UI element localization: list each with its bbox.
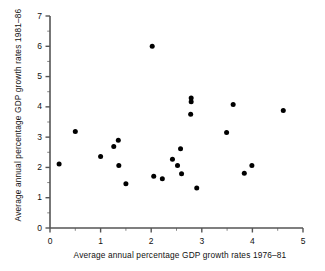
y-tick-label: 6 xyxy=(28,42,42,51)
x-axis-label: Average annual percentage GDP growth rat… xyxy=(40,250,320,260)
y-tick-label: 5 xyxy=(28,72,42,81)
data-point xyxy=(178,146,183,151)
data-point xyxy=(57,162,62,167)
scatter-plot-figure: Average annual percentage GDP growth rat… xyxy=(0,0,325,271)
y-tick-label: 2 xyxy=(28,163,42,172)
x-tick-label: 1 xyxy=(93,237,109,246)
data-point xyxy=(188,112,193,117)
data-point xyxy=(73,129,78,134)
data-point xyxy=(116,138,121,143)
y-axis-label: Average annual percentage GDP growth rat… xyxy=(13,0,23,230)
y-tick-label: 0 xyxy=(28,224,42,233)
data-point xyxy=(116,163,121,168)
data-point xyxy=(170,157,175,162)
data-point xyxy=(150,44,155,49)
data-point xyxy=(281,108,286,113)
y-tick-label: 1 xyxy=(28,193,42,202)
data-point xyxy=(189,99,194,104)
data-point xyxy=(179,171,184,176)
data-point xyxy=(111,144,116,149)
data-point xyxy=(98,154,103,159)
plot-canvas xyxy=(0,0,325,271)
data-point xyxy=(249,163,254,168)
x-tick-label: 3 xyxy=(194,237,210,246)
data-point xyxy=(231,102,236,107)
x-tick-label: 4 xyxy=(244,237,260,246)
x-tick-label: 2 xyxy=(143,237,159,246)
x-tick-label: 5 xyxy=(295,237,311,246)
data-point xyxy=(160,176,165,181)
data-point xyxy=(123,181,128,186)
tick-marks xyxy=(46,16,304,233)
data-point xyxy=(224,130,229,135)
data-point xyxy=(175,163,180,168)
axes xyxy=(50,16,303,228)
x-tick-label: 0 xyxy=(42,237,58,246)
data-points xyxy=(57,44,286,191)
y-tick-label: 3 xyxy=(28,133,42,142)
data-point xyxy=(151,174,156,179)
data-point xyxy=(242,171,247,176)
y-tick-label: 7 xyxy=(28,12,42,21)
data-point xyxy=(194,186,199,191)
y-tick-label: 4 xyxy=(28,102,42,111)
